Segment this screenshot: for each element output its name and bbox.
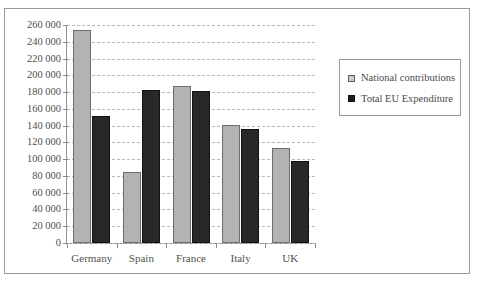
chart-figure-frame: 020 00040 00060 00080 000100 000120 0001… bbox=[4, 8, 470, 274]
legend-label-national-contributions: National contributions bbox=[361, 73, 455, 84]
y-axis-tick-mark bbox=[63, 92, 68, 93]
x-axis-tick-mark bbox=[117, 243, 118, 248]
x-axis-tick-label-spain: Spain bbox=[129, 252, 154, 264]
bar-uk-series-1 bbox=[272, 148, 290, 243]
y-axis-tick-mark bbox=[63, 226, 68, 227]
gridline bbox=[67, 25, 315, 26]
x-axis-tick-label-france: France bbox=[176, 252, 206, 264]
bar-germany-series-2 bbox=[92, 116, 110, 243]
bar-spain-series-2 bbox=[142, 90, 160, 243]
y-axis-tick-label: 240 000 bbox=[27, 37, 61, 48]
y-axis-tick-label: 80 000 bbox=[32, 171, 61, 182]
y-axis-tick-mark bbox=[63, 126, 68, 127]
bar-spain-series-1 bbox=[123, 172, 141, 243]
y-axis-tick-mark bbox=[63, 159, 68, 160]
y-axis-tick-mark bbox=[63, 59, 68, 60]
y-axis-tick-mark bbox=[63, 193, 68, 194]
chart-legend: National contributions Total EU Expendit… bbox=[339, 59, 461, 116]
y-axis-tick-mark bbox=[63, 176, 68, 177]
y-axis-tick-label: 200 000 bbox=[27, 70, 61, 81]
y-axis-tick-label: 0 bbox=[56, 238, 61, 249]
x-axis-tick-label-italy: Italy bbox=[231, 252, 251, 264]
legend-item-national-contributions: National contributions bbox=[348, 73, 453, 84]
y-axis-tick-label: 20 000 bbox=[32, 221, 61, 232]
x-axis-tick-label-germany: Germany bbox=[71, 252, 112, 264]
gridline bbox=[67, 75, 315, 76]
x-axis-tick-mark bbox=[265, 243, 266, 248]
bar-uk-series-2 bbox=[291, 161, 309, 243]
y-axis-tick-label: 160 000 bbox=[27, 104, 61, 115]
y-axis-tick-label: 140 000 bbox=[27, 120, 61, 131]
y-axis-tick-label: 220 000 bbox=[27, 53, 61, 64]
y-axis-tick-label: 100 000 bbox=[27, 154, 61, 165]
legend-swatch-icon-national-contributions bbox=[348, 75, 355, 82]
gridline bbox=[67, 59, 315, 60]
bar-france-series-1 bbox=[173, 86, 191, 243]
y-axis-tick-mark bbox=[63, 25, 68, 26]
legend-label-total-eu-expenditure: Total EU Expenditure bbox=[361, 94, 453, 105]
x-axis-tick-mark bbox=[216, 243, 217, 248]
gridline bbox=[67, 243, 315, 244]
bar-france-series-2 bbox=[192, 91, 210, 243]
y-axis-tick-mark bbox=[63, 109, 68, 110]
gridline bbox=[67, 42, 315, 43]
y-axis-tick-label: 120 000 bbox=[27, 137, 61, 148]
bar-italy-series-1 bbox=[222, 125, 240, 243]
plot-area: 020 00040 00060 00080 000100 000120 0001… bbox=[67, 25, 315, 243]
x-axis-tick-mark bbox=[67, 243, 68, 248]
x-axis-tick-mark bbox=[315, 243, 316, 248]
y-axis-tick-mark bbox=[63, 75, 68, 76]
legend-item-total-eu-expenditure: Total EU Expenditure bbox=[348, 94, 453, 105]
bar-italy-series-2 bbox=[241, 129, 259, 243]
x-axis-tick-label-uk: UK bbox=[282, 252, 298, 264]
y-axis-tick-mark bbox=[63, 209, 68, 210]
y-axis-tick-label: 260 000 bbox=[27, 20, 61, 31]
y-axis-tick-label: 60 000 bbox=[32, 187, 61, 198]
bar-germany-series-1 bbox=[73, 30, 91, 243]
legend-swatch-icon-total-eu-expenditure bbox=[348, 95, 355, 102]
y-axis-tick-mark bbox=[63, 42, 68, 43]
y-axis-tick-mark bbox=[63, 142, 68, 143]
y-axis-tick-label: 180 000 bbox=[27, 87, 61, 98]
y-axis-tick-label: 40 000 bbox=[32, 204, 61, 215]
x-axis-tick-mark bbox=[166, 243, 167, 248]
